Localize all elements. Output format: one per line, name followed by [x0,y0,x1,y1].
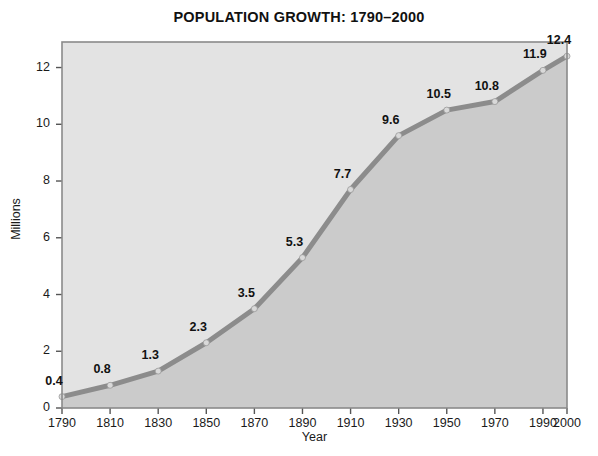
data-point-marker [251,306,257,312]
data-point-label: 0.4 [29,374,79,388]
data-point-label: 1.3 [125,348,175,362]
data-point-label: 7.7 [318,167,368,181]
y-axis-tick-label: 4 [24,287,50,301]
data-point-marker [540,67,546,73]
plot-canvas [0,0,598,456]
data-point-marker [492,99,498,105]
data-point-marker [155,368,161,374]
data-point-marker [107,382,113,388]
y-axis-tick-label: 12 [24,60,50,74]
data-point-label: 10.5 [414,87,464,101]
data-point-label: 9.6 [366,113,416,127]
data-point-label: 0.8 [77,362,127,376]
data-point-marker [444,107,450,113]
data-point-label: 11.9 [510,47,560,61]
data-point-marker [203,340,209,346]
y-axis-ticks [56,68,62,408]
y-axis-tick-label: 2 [24,343,50,357]
x-axis-ticks [62,408,567,414]
data-point-marker [396,133,402,139]
y-axis-tick-label: 10 [24,116,50,130]
y-axis-tick-label: 6 [24,230,50,244]
data-point-label: 10.8 [462,79,512,93]
data-point-label: 5.3 [269,235,319,249]
data-point-label: 3.5 [221,286,271,300]
data-point-label: 2.3 [173,320,223,334]
y-axis-tick-label: 0 [24,400,50,414]
data-point-marker [299,255,305,261]
data-point-label: 12.4 [534,33,584,47]
population-growth-chart: POPULATION GROWTH: 1790–2000 Millions Ye… [0,0,598,456]
x-axis-tick-label: 2000 [537,416,597,430]
data-point-marker [348,187,354,193]
y-axis-tick-label: 8 [24,173,50,187]
